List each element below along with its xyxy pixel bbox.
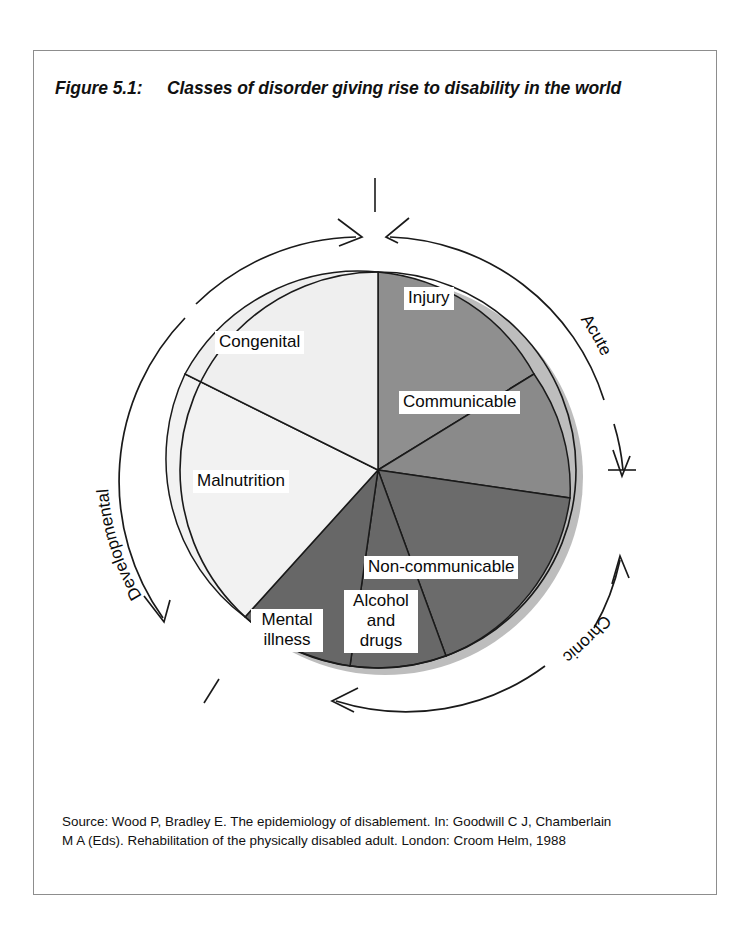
- slice-label-alcohol-line2: and: [348, 611, 414, 631]
- slice-label-injury: Injury: [404, 287, 454, 310]
- slice-label-communicable-text: Communicable: [403, 392, 516, 411]
- figure-title: Figure 5.1:Classes of disorder giving ri…: [55, 78, 695, 99]
- figure-title-text: Classes of disorder giving rise to disab…: [167, 78, 621, 99]
- slice-label-communicable: Communicable: [399, 391, 520, 414]
- source-note-line1: Source: Wood P, Bradley E. The epidemiol…: [62, 812, 662, 831]
- slice-label-mental-illness: Mental illness: [251, 609, 323, 652]
- slice-label-injury-text: Injury: [408, 288, 450, 307]
- slice-label-congenital-text: Congenital: [219, 332, 300, 351]
- slice-label-malnutrition: Malnutrition: [193, 470, 289, 493]
- slice-label-mental-line2: illness: [255, 630, 319, 650]
- slice-label-alcohol-line3: drugs: [348, 631, 414, 651]
- figure-frame: [33, 50, 717, 895]
- slice-label-congenital: Congenital: [215, 331, 304, 354]
- slice-label-mental-line1: Mental: [255, 610, 319, 630]
- slice-label-malnutrition-text: Malnutrition: [197, 471, 285, 490]
- source-note: Source: Wood P, Bradley E. The epidemiol…: [62, 812, 662, 850]
- slice-label-alcohol-and-drugs: Alcohol and drugs: [344, 590, 418, 653]
- slice-label-alcohol-line1: Alcohol: [348, 591, 414, 611]
- slice-label-non-communicable-text: Non-communicable: [368, 557, 514, 576]
- source-note-line2: M A (Eds). Rehabilitation of the physica…: [62, 831, 662, 850]
- slice-label-non-communicable: Non-communicable: [364, 556, 518, 579]
- figure-number: Figure 5.1:: [55, 78, 167, 99]
